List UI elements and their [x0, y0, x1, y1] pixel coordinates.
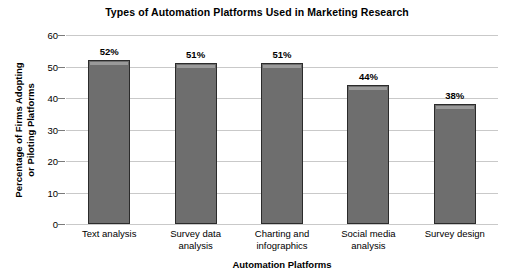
x-axis-category-label-line: Charting and — [236, 228, 328, 240]
x-axis-category-label-line: Social media — [322, 228, 414, 240]
x-axis-category-label-line: analysis — [322, 240, 414, 252]
bar-value-label: 44% — [338, 71, 398, 82]
y-axis-tick — [57, 161, 65, 162]
x-axis-category-label-line: Survey data — [150, 228, 242, 240]
bar-chart: Types of Automation Platforms Used in Ma… — [0, 0, 514, 275]
plot-area: 52%51%51%44%38% — [66, 35, 498, 224]
x-axis-category-label: Social mediaanalysis — [322, 228, 414, 251]
y-axis-title-line-1: Percentage of Firms Adopting — [13, 62, 25, 197]
x-axis-category-label: Charting andinfographics — [236, 228, 328, 251]
x-axis-category-label-line: infographics — [236, 240, 328, 252]
y-axis-tick — [57, 130, 65, 131]
bar-value-label: 51% — [252, 49, 312, 60]
bar-value-label: 51% — [166, 49, 226, 60]
y-axis-tick — [57, 67, 65, 68]
bar-value-label: 52% — [79, 46, 139, 57]
x-axis-category-label-line: Text analysis — [63, 228, 155, 240]
gridline — [66, 35, 498, 36]
y-axis-tick — [57, 98, 65, 99]
y-axis-tick-labels: 0102030405060 — [36, 35, 58, 224]
x-axis-category-labels: Text analysisSurvey dataanalysisCharting… — [66, 228, 498, 260]
bar-value-label: 38% — [425, 90, 485, 101]
x-axis-title: Automation Platforms — [66, 259, 498, 270]
x-axis-category-label-line: analysis — [150, 240, 242, 252]
y-axis-tick — [57, 224, 65, 225]
y-axis-tick — [57, 35, 65, 36]
y-axis-tick — [57, 193, 65, 194]
x-axis-category-label-line: Survey design — [409, 228, 501, 240]
gridline — [66, 224, 498, 225]
bar — [434, 104, 476, 224]
x-axis-category-label: Survey design — [409, 228, 501, 240]
y-axis-title: Percentage of Firms Adopting or Piloting… — [14, 35, 36, 225]
chart-title: Types of Automation Platforms Used in Ma… — [0, 6, 514, 18]
x-axis-category-label: Survey dataanalysis — [150, 228, 242, 251]
bar — [347, 85, 389, 224]
x-axis-category-label: Text analysis — [63, 228, 155, 240]
bar — [88, 60, 130, 224]
bar — [175, 63, 217, 224]
bar — [261, 63, 303, 224]
